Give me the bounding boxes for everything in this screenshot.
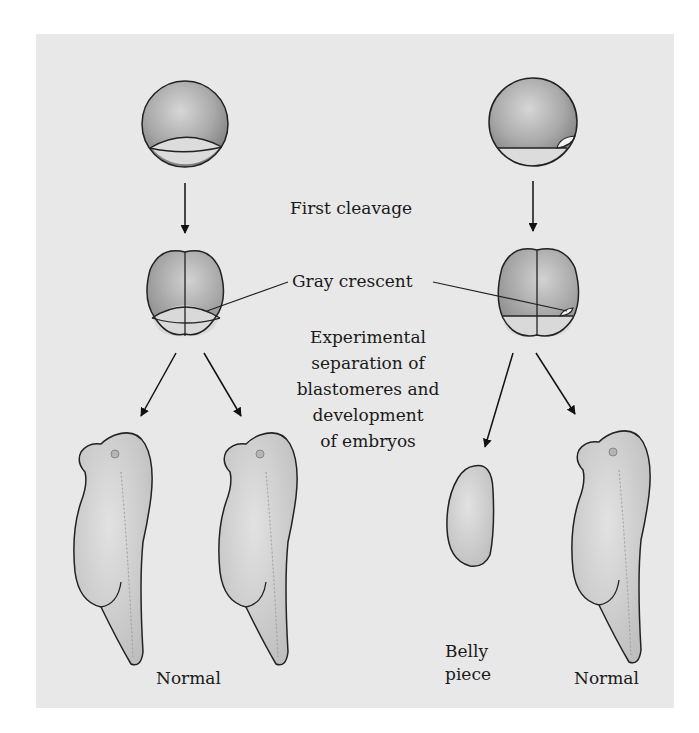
arrow-left-a	[141, 353, 176, 416]
label-right-outcome-normal: Normal	[574, 667, 639, 689]
arrow-right-normal	[536, 353, 575, 414]
tadpole-left-2	[219, 433, 297, 665]
arrow-right-belly	[485, 353, 513, 447]
left-two-cell-embryo	[147, 251, 224, 336]
arrow-left-b	[204, 353, 241, 416]
right-zygote	[489, 78, 577, 166]
tadpole-left-1	[74, 433, 152, 665]
left-zygote	[142, 81, 228, 167]
label-first-cleavage: First cleavage	[290, 197, 412, 219]
belly-piece	[447, 466, 494, 567]
tadpole-right	[572, 431, 650, 663]
label-experiment-description: Experimental separation of blastomeres a…	[283, 324, 453, 454]
right-two-cell-embryo	[498, 249, 578, 337]
label-belly-piece: Belly piece	[445, 640, 505, 686]
label-left-outcome-normal: Normal	[156, 667, 221, 689]
label-gray-crescent: Gray crescent	[292, 270, 413, 292]
